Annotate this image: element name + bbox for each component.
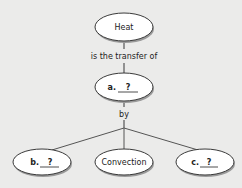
node-c: c. ? [176,149,235,177]
node-convection-label: Convection [102,158,147,167]
node-a: a. ? [95,73,154,103]
link-label-transfer: is the transfer of [91,52,158,61]
node-heat-label: Heat [115,23,134,32]
concept-map: Heat is the transfer of a. ? by b. ? Con… [0,0,242,188]
node-a-prefix: a. [108,83,116,92]
node-a-blank: ? [126,83,131,92]
node-c-prefix: c. [191,158,199,167]
node-heat: Heat [95,13,154,43]
node-b-prefix: b. [30,158,39,167]
link-label-by: by [119,110,129,119]
node-convection: Convection [95,149,154,177]
connector-to-b [52,128,124,150]
node-b: b. ? [13,149,72,177]
node-b-blank: ? [48,158,53,167]
connector-to-c [124,128,198,150]
node-c-blank: ? [207,158,212,167]
